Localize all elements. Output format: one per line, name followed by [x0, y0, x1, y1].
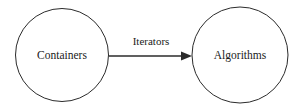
diagram-canvas: Containers Algorithms Iterators	[0, 0, 302, 109]
node-label-containers: Containers	[37, 49, 87, 61]
node-label-algorithms: Algorithms	[214, 49, 267, 62]
edge-label-iterators: Iterators	[133, 35, 170, 47]
arrowhead-icon	[181, 52, 192, 61]
